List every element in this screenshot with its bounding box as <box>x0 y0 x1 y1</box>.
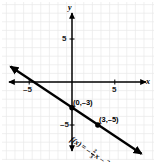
x-tick-label-neg5: –5 <box>23 86 32 94</box>
y-tick-label-neg5: –5 <box>60 121 69 129</box>
coordinate-plane-graph: x y –5 5 5 –5 (0,–3) (3,–5) f(x) = – 2 3… <box>0 0 156 162</box>
point-label-3-neg5: (3,–5) <box>99 116 119 124</box>
y-tick-label-5: 5 <box>62 35 66 43</box>
x-tick-label-5: 5 <box>112 86 116 94</box>
x-axis-label: x <box>146 78 150 86</box>
y-axis-label: y <box>68 4 72 12</box>
point-label-0-neg3: (0,–3) <box>73 99 93 107</box>
